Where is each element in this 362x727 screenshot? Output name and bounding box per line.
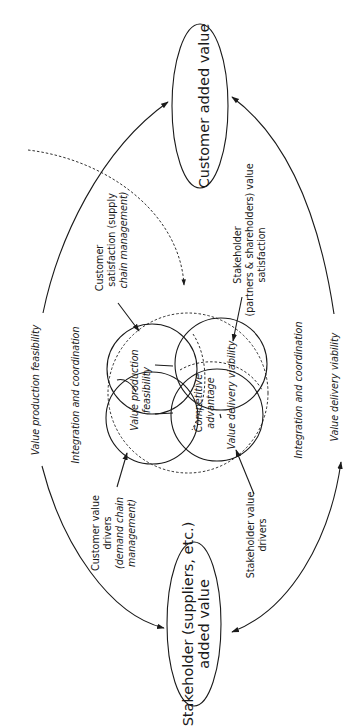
- svg-text:chain management): chain management): [118, 191, 129, 288]
- left-outer-label: Value production feasibility: [30, 324, 41, 455]
- stakeholder-added-value-label-line2: added value: [196, 579, 212, 669]
- right-outer-label: Value delivery viability: [329, 332, 340, 441]
- value-production-circle-bottom: [106, 372, 198, 464]
- svg-text:(partners & shareholders) valu: (partners & shareholders) value: [244, 163, 255, 316]
- svg-text:drivers: drivers: [257, 518, 268, 551]
- customer-value-drivers-annotation: Customer value drivers (demand chain man…: [90, 495, 137, 571]
- left-inner-label: Integration and coordination: [70, 326, 81, 463]
- stakeholder-value-drivers-annotation: Stakeholder value drivers: [245, 492, 268, 579]
- stakeholder-value-drivers-arrow: [236, 450, 254, 494]
- competitive-advantage-label-line1: Competitive: [193, 374, 204, 432]
- value-delivery-circle-bottom: [171, 369, 263, 461]
- customer-satisfaction-annotation: Customer satisfaction (supply chain mana…: [94, 191, 129, 291]
- customer-value-drivers-arrow: [117, 453, 127, 487]
- customer-satisfaction-arrow: [118, 303, 139, 331]
- value-production-label-line1: Value production: [129, 349, 140, 430]
- competitive-advantage-label-line2: advantage: [205, 377, 216, 428]
- stakeholder-added-value-label-line1: Stakeholder (suppliers, etc.): [180, 522, 196, 727]
- svg-text:satisfaction (supply: satisfaction (supply: [106, 193, 117, 287]
- value-production-label-line2: feasibility: [141, 367, 152, 414]
- svg-text:Stakeholder value: Stakeholder value: [245, 492, 256, 579]
- svg-text:Customer value: Customer value: [90, 495, 101, 571]
- svg-text:drivers: drivers: [102, 516, 113, 549]
- svg-text:Stakeholder: Stakeholder: [232, 226, 243, 283]
- stakeholder-added-value-node: Stakeholder (suppliers, etc.) added valu…: [167, 522, 221, 727]
- svg-text:(demand chain: (demand chain: [114, 497, 125, 569]
- right-inner-label: Integration and coordination: [293, 321, 304, 458]
- customer-added-value-node: Customer added value: [172, 24, 228, 189]
- value-creation-diagram: Customer added value Stakeholder (suppli…: [0, 0, 362, 727]
- svg-text:satisfaction: satisfaction: [256, 227, 267, 282]
- value-delivery-circle-top: [175, 318, 267, 410]
- svg-text:Customer: Customer: [94, 245, 105, 292]
- stakeholder-satisfaction-annotation: Stakeholder (partners & shareholders) va…: [232, 163, 267, 316]
- value-delivery-label: Value delivery viability: [226, 340, 237, 449]
- customer-added-value-label: Customer added value: [196, 24, 212, 189]
- svg-text:management): management): [126, 499, 137, 567]
- stakeholder-satisfaction-arrow: [233, 297, 242, 341]
